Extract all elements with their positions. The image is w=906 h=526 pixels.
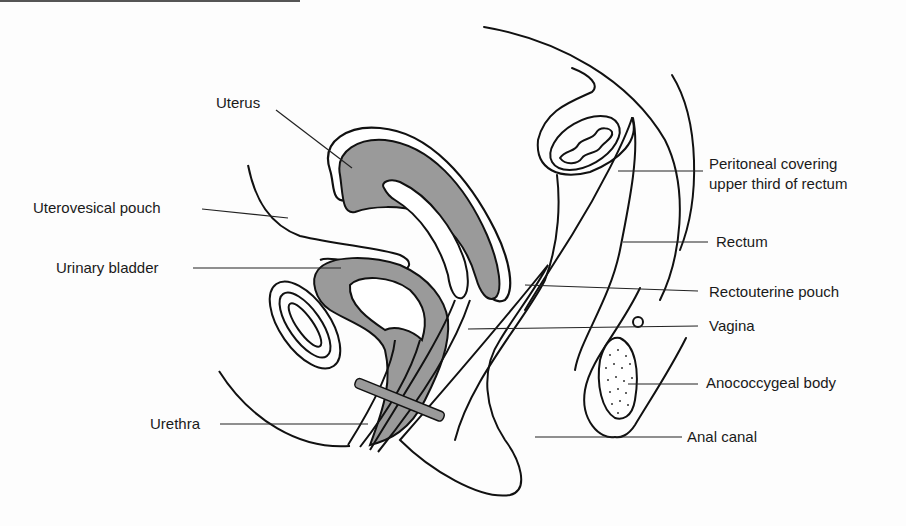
label-uterus: Uterus	[216, 94, 260, 111]
sigmoid-colon-ring	[541, 105, 629, 181]
small-node	[633, 317, 643, 327]
label-anococcygeal-body: Anococcygeal body	[706, 374, 836, 391]
label-vagina: Vagina	[709, 317, 755, 334]
pubis-inner	[284, 299, 327, 351]
sigmoid-colon-outer	[538, 68, 634, 175]
coccyx-line	[672, 75, 694, 250]
sigmoid-colon-lumen	[560, 128, 612, 163]
label-rectouterine-pouch: Rectouterine pouch	[709, 283, 839, 300]
peritoneal-fold	[525, 118, 632, 310]
label-urethra: Urethra	[150, 415, 200, 432]
label-peritoneal-covering-line1: Peritoneal covering	[709, 155, 837, 172]
label-uterovesical-pouch: Uterovesical pouch	[33, 199, 161, 216]
sacrum-curve	[484, 27, 680, 300]
label-rectum: Rectum	[716, 233, 768, 250]
label-anal-canal: Anal canal	[687, 428, 757, 445]
label-peritoneal-covering-line2: upper third of rectum	[709, 175, 847, 192]
anatomy-diagram: Uterus Uterovesical pouch Urinary bladde…	[0, 0, 906, 526]
skin-curve	[219, 371, 350, 446]
label-urinary-bladder: Urinary bladder	[56, 259, 159, 276]
